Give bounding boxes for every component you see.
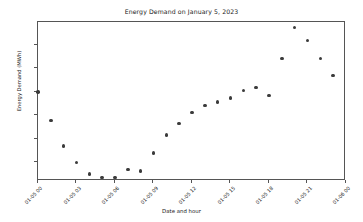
- chart-figure: Energy Demand on January 5, 2023 Energy …: [0, 0, 363, 222]
- x-tick-label: 01-05 18: [250, 185, 274, 209]
- x-tick-mark: [114, 180, 115, 183]
- x-tick-label: 01-05 03: [58, 185, 82, 209]
- x-axis-label: Date and hour: [0, 208, 363, 214]
- x-tick-mark: [229, 180, 230, 183]
- x-tick-mark: [191, 180, 192, 183]
- x-tick-mark: [268, 180, 269, 183]
- x-tick-label: 01-05 15: [212, 185, 236, 209]
- x-tick-label: 01-05 06: [96, 185, 120, 209]
- x-tick-label: 01-06 00: [327, 185, 351, 209]
- x-tick-label: 01-05 12: [173, 185, 197, 209]
- x-tick-label: 01-05 21: [289, 185, 313, 209]
- x-tick-mark: [345, 180, 346, 183]
- x-tick-mark: [75, 180, 76, 183]
- x-tick-mark: [37, 180, 38, 183]
- x-tick-mark: [306, 180, 307, 183]
- x-tick-label: 01-05 09: [135, 185, 159, 209]
- x-tick-mark: [152, 180, 153, 183]
- x-axis-ticks: 01-05 0001-05 0301-05 0601-05 0901-05 12…: [0, 0, 363, 222]
- x-tick-label: 01-05 00: [19, 185, 43, 209]
